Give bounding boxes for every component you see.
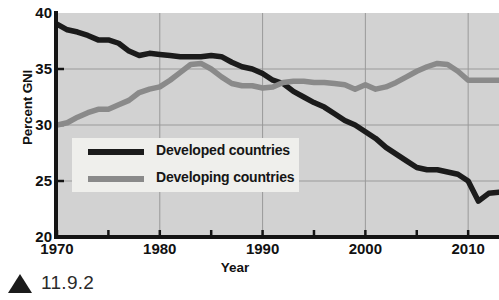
x-tick-label: 2010 xyxy=(436,241,499,256)
chart-canvas xyxy=(57,13,499,237)
legend-item: Developed countries xyxy=(72,138,299,165)
figure-number: 11.9.2 xyxy=(41,272,94,294)
y-tick-label: 30 xyxy=(22,117,52,132)
x-axis-title: Year xyxy=(170,260,300,275)
legend-swatch-line-icon xyxy=(88,149,144,155)
legend-label: Developed countries xyxy=(156,142,290,158)
plot-area xyxy=(57,13,499,237)
legend-item: Developing countries xyxy=(72,165,299,192)
figure-caption: 11.9.2 xyxy=(8,268,94,298)
x-tick-label: 1990 xyxy=(231,241,295,256)
series-line-developing xyxy=(57,63,499,125)
legend-swatch-line-icon xyxy=(88,176,144,182)
x-tick-label: 1980 xyxy=(128,241,192,256)
triangle-up-icon xyxy=(8,274,32,293)
y-tick-label: 40 xyxy=(22,5,52,20)
x-axis-tick-marks xyxy=(0,226,499,240)
chart-legend: Developed countriesDeveloping countries xyxy=(72,138,299,192)
y-tick-label: 25 xyxy=(22,173,52,188)
y-tick-label: 35 xyxy=(22,61,52,76)
x-tick-label: 1970 xyxy=(25,241,89,256)
legend-label: Developing countries xyxy=(156,169,294,185)
y-axis-spine xyxy=(54,11,58,239)
figure: Percent GNI 2025303540 19701980199020002… xyxy=(0,0,499,300)
x-tick-label: 2000 xyxy=(333,241,397,256)
